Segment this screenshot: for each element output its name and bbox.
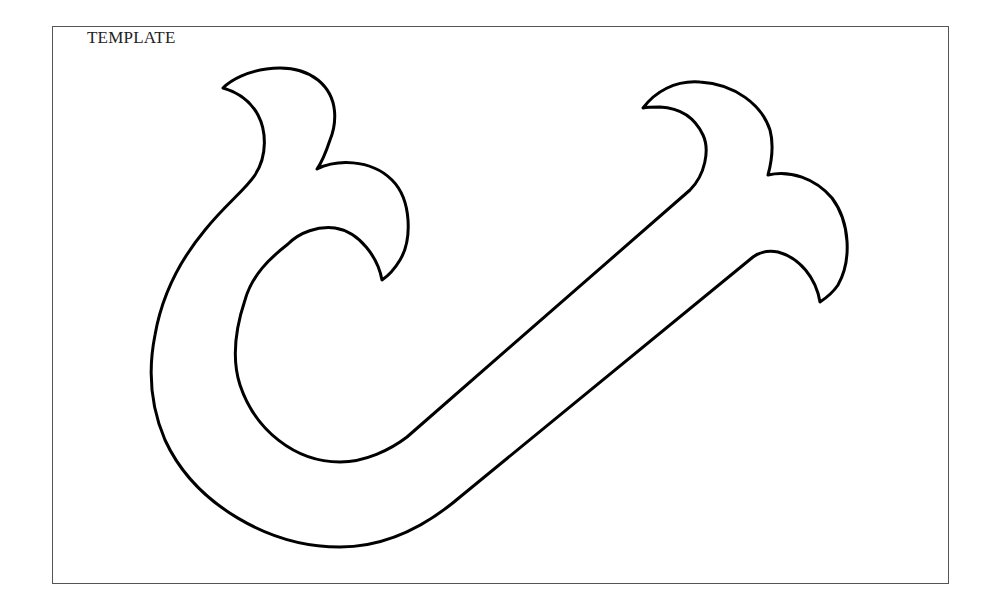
j-shape-outline [151, 68, 847, 547]
template-shape [0, 0, 988, 604]
